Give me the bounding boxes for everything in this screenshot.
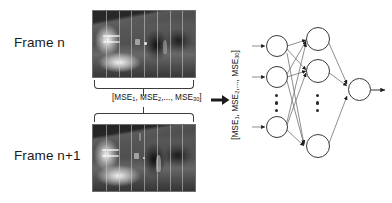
neural-network <box>244 6 392 198</box>
mse-term-3: MSE <box>175 93 193 102</box>
input-layer-ellipsis <box>275 94 278 112</box>
frame-n-label: Frame n <box>14 36 65 50</box>
mse-v-sep-1: , <box>231 112 240 117</box>
transfer-arrow-icon <box>211 94 230 106</box>
frame-n-highlight-sign <box>135 39 140 45</box>
mse-v-term-3-subscript: 30 <box>234 53 240 59</box>
mse-v-term-3: MSE <box>231 59 240 77</box>
frame-n-plus-1-label: Frame n+1 <box>14 149 81 163</box>
hidden-node-2 <box>306 59 330 83</box>
input-node-2 <box>266 66 288 88</box>
mse-term-2: MSE <box>140 93 158 102</box>
frame-n1-highlight-sign <box>134 153 139 159</box>
mse-term-3-subscript: 30 <box>193 96 199 102</box>
hidden-layer-ellipsis <box>316 94 319 112</box>
frame-n1-ceiling-fixture <box>139 133 141 141</box>
frame-n-highlight-lamp <box>144 42 147 45</box>
frame-n1-person <box>156 155 161 172</box>
mse-v-open-bracket: [ <box>231 138 240 140</box>
hidden-node-1 <box>306 27 330 51</box>
input-node-1 <box>266 35 288 57</box>
mse-term-1-subscript: 1 <box>132 96 135 102</box>
diagram-canvas: Frame n [MSE1, MSE2,..., MSE30] Frame n+… <box>0 0 392 203</box>
mse-sep-2: ,..., <box>161 93 175 102</box>
mse-v-term-1: MSE <box>231 120 240 138</box>
mse-term-1: MSE <box>114 93 132 102</box>
mse-vector-label-vertical: [MSE1, MSE2,..., MSE30] <box>232 50 240 140</box>
mse-close-bracket: ] <box>199 93 201 102</box>
mse-vector-label: [MSE1, MSE2,..., MSE30] <box>112 94 202 102</box>
mse-v-term-2-subscript: 2 <box>234 91 240 94</box>
mse-term-2-subscript: 2 <box>158 96 161 102</box>
frame-n-window-bar-upper <box>103 35 120 37</box>
brace-frame-n1 <box>94 113 194 122</box>
input-node-3 <box>266 116 288 138</box>
output-node-1 <box>348 78 371 101</box>
frame-n-image <box>92 10 196 78</box>
frame-n-plus-1-image <box>92 124 196 192</box>
mse-v-term-1-subscript: 1 <box>234 116 240 119</box>
hidden-node-3 <box>306 134 330 158</box>
mse-v-term-2: MSE <box>231 94 240 112</box>
brace-frame-n <box>94 80 194 89</box>
mse-v-sep-2: ,..., <box>231 77 240 91</box>
frame-n-window-bar-lower <box>103 41 120 43</box>
